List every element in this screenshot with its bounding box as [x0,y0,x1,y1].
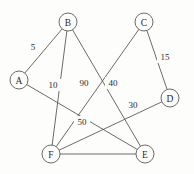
node-label-a: A [16,76,23,86]
edge-weights-layer: 5104090153050 [25,41,173,128]
graph-diagram: ABCDEF 5104090153050 [0,0,194,174]
edge-weight-d-f: 30 [129,100,139,110]
node-label-c: C [141,18,147,28]
graph-node-c[interactable]: C [135,13,153,31]
graph-svg: ABCDEF 5104090153050 [0,0,194,174]
graph-node-e[interactable]: E [136,145,154,163]
node-label-f: F [48,150,53,160]
graph-edge-c-f [56,29,139,146]
node-label-e: E [142,150,148,160]
graph-node-d[interactable]: D [161,89,179,107]
edge-weight-c-f: 90 [80,78,90,88]
node-label-b: B [65,18,71,28]
graph-node-b[interactable]: B [59,13,77,31]
edge-weight-c-d: 15 [161,52,171,62]
nodes-layer: ABCDEF [10,13,179,163]
edge-weight-a-b: 5 [31,42,36,52]
graph-node-f[interactable]: F [42,145,60,163]
edge-weight-f-e: 50 [78,117,88,127]
graph-node-a[interactable]: A [10,71,28,89]
edge-weight-b-e: 40 [109,78,119,88]
edge-weight-b-f: 10 [49,80,59,90]
node-label-d: D [167,94,174,104]
edges-layer [25,29,167,154]
